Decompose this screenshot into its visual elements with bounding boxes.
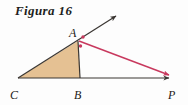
angle-dot-lower-icon [79, 44, 82, 47]
angle-dot-upper-icon [81, 35, 84, 38]
vertex-label-p: P [167, 88, 176, 102]
vertex-label-c: C [10, 88, 19, 102]
figure-container: Figura 16 A B C P [0, 0, 188, 105]
vertex-label-b: B [74, 88, 82, 102]
vertex-label-a: A [68, 26, 77, 40]
ray-ap-pink [79, 41, 169, 75]
geometry-diagram: A B C P [0, 0, 188, 105]
